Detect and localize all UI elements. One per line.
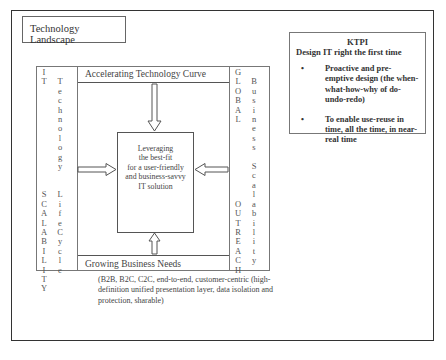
arrow-left-icon xyxy=(195,164,228,176)
bullet-icon: • xyxy=(296,64,325,106)
ktpi-bullet-list: • Proactive and pre-emptive design (the … xyxy=(296,64,419,146)
bullet-icon: • xyxy=(296,115,325,146)
ktpi-bullet-text: Proactive and pre-emptive design (the wh… xyxy=(325,64,419,106)
ktpi-subheading: Design IT right the first time xyxy=(296,47,419,57)
arrow-up-icon xyxy=(149,233,160,254)
arrow-down-icon xyxy=(148,84,161,131)
business-models-note: (B2B, B2C, C2C, end-to-end, customer-cen… xyxy=(98,275,288,306)
ktpi-bullet-item: • Proactive and pre-emptive design (the … xyxy=(296,64,419,106)
ktpi-heading: KTPI xyxy=(296,37,419,47)
ktpi-box: KTPI Design IT right the first time • Pr… xyxy=(289,32,426,134)
ktpi-bullet-item: • To enable use-reuse in time, all the t… xyxy=(296,115,419,146)
arrow-right-icon xyxy=(78,164,116,176)
ktpi-bullet-text: To enable use-reuse in time, all the tim… xyxy=(325,115,419,146)
